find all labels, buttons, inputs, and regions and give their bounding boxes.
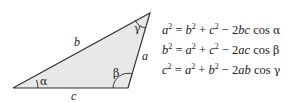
exponent: 2 (215, 42, 219, 51)
equation-c: c2 = a2 + b2 − 2ab cos γ (162, 60, 280, 80)
cos-function: cos (253, 23, 270, 37)
cos-function: cos (253, 43, 270, 57)
angle-symbol: γ (274, 64, 281, 77)
plus-sign: + (199, 23, 206, 37)
cos-function: cos (254, 63, 271, 77)
angle-label-beta: β (113, 67, 119, 80)
law-of-cosines-equations: a2 = b2 + c2 − 2bc cos α b2 = a2 + c2 − … (162, 20, 280, 80)
product: ab (238, 63, 251, 77)
minus-sign: − (222, 43, 229, 57)
equation-a: a2 = b2 + c2 − 2bc cos α (162, 20, 280, 40)
exponent: 2 (191, 62, 195, 71)
product: bc (238, 23, 250, 37)
exponent: 2 (168, 62, 172, 71)
exponent: 2 (215, 62, 219, 71)
side-label-b: b (74, 35, 80, 49)
angle-symbol: α (273, 24, 280, 37)
exponent: 2 (192, 22, 196, 31)
equation-b: b2 = a2 + c2 − 2ac cos β (162, 40, 280, 60)
exponent: 2 (215, 22, 219, 31)
angle-label-alpha: α (40, 75, 48, 88)
exponent: 2 (192, 42, 196, 51)
minus-sign: − (222, 63, 229, 77)
side-label-c: c (71, 89, 77, 102)
exponent: 2 (168, 22, 172, 31)
equals-sign: = (175, 43, 182, 57)
angle-symbol: β (273, 44, 279, 57)
triangle-diagram: b a c α β γ (0, 0, 160, 102)
triangle (13, 13, 150, 88)
exponent: 2 (168, 42, 172, 51)
angle-label-gamma: γ (134, 22, 141, 35)
product: ac (238, 43, 250, 57)
minus-sign: − (222, 23, 229, 37)
side-label-a: a (142, 49, 148, 63)
equals-sign: = (175, 63, 182, 77)
plus-sign: + (199, 43, 206, 57)
plus-sign: + (198, 63, 205, 77)
equals-sign: = (175, 23, 182, 37)
